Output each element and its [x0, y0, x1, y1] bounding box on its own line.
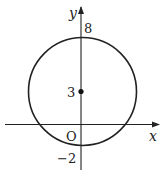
tick-label-8: 8 [84, 21, 92, 36]
center-point [78, 89, 83, 94]
tick-label-neg2: −2 [57, 151, 76, 166]
origin-label: O [66, 129, 77, 144]
circle-diagram: y 8 3 O −2 x [0, 0, 164, 176]
x-axis-label: x [149, 128, 157, 144]
diagram-canvas: y 8 3 O −2 x [0, 0, 164, 176]
tick-label-3: 3 [67, 85, 75, 100]
y-axis-label: y [68, 5, 78, 21]
